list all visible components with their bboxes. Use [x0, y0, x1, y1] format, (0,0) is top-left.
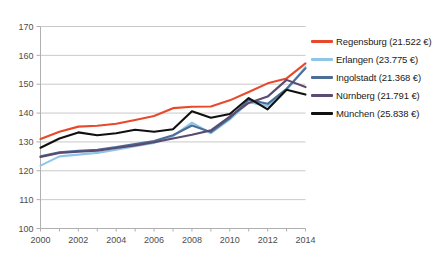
legend-swatch-regensburg	[311, 40, 333, 43]
xtick-label-group: 20002002200420062008201020122014	[30, 235, 315, 245]
gridline-group	[41, 27, 306, 200]
chart-legend: Regensburg (21.522 €) Erlangen (23.775 €…	[311, 32, 446, 122]
legend-item-muenchen: München (25.838 €)	[311, 104, 446, 122]
xtick-label-2012: 2012	[258, 235, 278, 245]
legend-item-nuernberg: Nürnberg (21.791 €)	[311, 86, 446, 104]
xtick-label-2010: 2010	[220, 235, 240, 245]
ytick-label-130: 130	[18, 137, 33, 147]
ytick-label-120: 120	[18, 166, 33, 176]
legend-swatch-ingolstadt	[311, 76, 333, 79]
xtick-label-2000: 2000	[30, 235, 50, 245]
ytick-label-140: 140	[18, 108, 33, 118]
legend-swatch-erlangen	[311, 58, 333, 61]
legend-label-erlangen: Erlangen (23.775 €)	[336, 54, 418, 65]
xtick-label-2004: 2004	[106, 235, 126, 245]
series-line-group	[41, 63, 306, 165]
legend-item-regensburg: Regensburg (21.522 €)	[311, 32, 446, 50]
chart-figure: 100110120130140150160170 200020022004200…	[0, 0, 446, 268]
legend-item-erlangen: Erlangen (23.775 €)	[311, 50, 446, 68]
xtick-label-2014: 2014	[295, 235, 315, 245]
legend-label-regensburg: Regensburg (21.522 €)	[336, 36, 432, 47]
xtick-label-2002: 2002	[68, 235, 88, 245]
legend-label-muenchen: München (25.838 €)	[336, 108, 419, 119]
legend-label-ingolstadt: Ingolstadt (21.368 €)	[336, 72, 421, 83]
ytick-label-150: 150	[18, 79, 33, 89]
legend-label-nuernberg: Nürnberg (21.791 €)	[336, 90, 420, 101]
series-line-regensburg	[41, 63, 306, 139]
ytick-label-group: 100110120130140150160170	[18, 22, 33, 234]
ytick-label-160: 160	[18, 51, 33, 61]
legend-swatch-muenchen	[311, 112, 333, 115]
legend-swatch-nuernberg	[311, 94, 333, 97]
ytick-label-170: 170	[18, 22, 33, 32]
legend-item-ingolstadt: Ingolstadt (21.368 €)	[311, 68, 446, 86]
series-line-nrnberg	[41, 80, 306, 157]
ytick-mark-group	[37, 27, 41, 229]
series-line-ingolstadt	[41, 68, 306, 156]
xtick-label-2008: 2008	[182, 235, 202, 245]
xtick-label-2006: 2006	[144, 235, 164, 245]
ytick-label-110: 110	[19, 195, 33, 205]
ytick-label-100: 100	[18, 224, 33, 234]
